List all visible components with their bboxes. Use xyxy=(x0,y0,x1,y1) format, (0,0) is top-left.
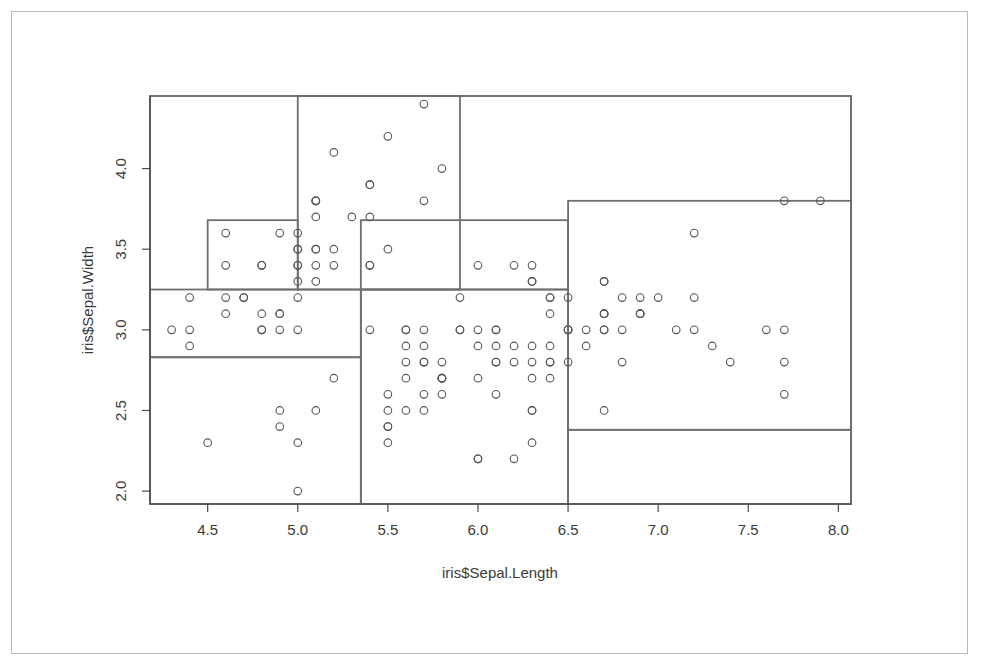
region-mid-length-upper-band xyxy=(361,220,568,289)
x-tick-label: 5.0 xyxy=(287,521,308,538)
partition-rectangles-layer xyxy=(150,96,851,504)
data-point xyxy=(222,294,230,302)
data-point xyxy=(384,133,392,141)
region-low-length-low-width xyxy=(150,357,361,504)
data-point xyxy=(528,439,536,447)
data-point xyxy=(186,342,194,350)
data-point xyxy=(222,262,230,270)
data-point xyxy=(546,294,554,302)
data-point xyxy=(600,278,608,286)
plot-frame xyxy=(150,96,851,504)
data-point xyxy=(402,407,410,415)
data-point xyxy=(420,407,428,415)
data-point xyxy=(222,229,230,237)
data-point xyxy=(492,326,500,334)
data-point xyxy=(690,229,698,237)
data-point xyxy=(402,326,410,334)
x-tick-label: 5.5 xyxy=(377,521,398,538)
region-low-length-mid-width xyxy=(150,290,361,358)
y-axis-ticks: 2.02.53.03.54.0 xyxy=(112,158,150,501)
data-point xyxy=(763,326,771,334)
data-point xyxy=(546,374,554,382)
data-point xyxy=(330,374,338,382)
data-point xyxy=(330,149,338,157)
data-point xyxy=(528,358,536,366)
data-point xyxy=(312,262,320,270)
data-point xyxy=(330,245,338,253)
region-high-length-mid-width xyxy=(568,201,851,430)
data-point xyxy=(312,278,320,286)
data-point xyxy=(781,358,789,366)
data-point xyxy=(528,278,536,286)
data-point xyxy=(438,165,446,173)
data-point xyxy=(582,326,590,334)
data-point xyxy=(258,262,266,270)
data-point xyxy=(438,374,446,382)
data-point xyxy=(276,326,284,334)
data-point xyxy=(366,181,374,189)
data-point xyxy=(420,342,428,350)
data-point xyxy=(222,310,230,318)
data-point xyxy=(276,310,284,318)
data-point xyxy=(600,326,608,334)
data-point xyxy=(420,100,428,108)
data-point xyxy=(708,342,716,350)
data-point xyxy=(492,342,500,350)
data-point xyxy=(600,310,608,318)
data-point xyxy=(726,358,734,366)
y-tick-label: 2.0 xyxy=(112,481,129,502)
data-point xyxy=(294,326,302,334)
data-point xyxy=(510,262,518,270)
data-point xyxy=(420,326,428,334)
data-point xyxy=(492,391,500,399)
data-point xyxy=(402,358,410,366)
data-point xyxy=(366,262,374,270)
scatterplot-svg: 4.55.05.56.06.57.07.58.0 iris$Sepal.Leng… xyxy=(0,0,982,669)
data-point xyxy=(474,342,482,350)
data-point xyxy=(384,407,392,415)
data-point xyxy=(384,423,392,431)
data-point xyxy=(492,358,500,366)
y-tick-label: 2.5 xyxy=(112,400,129,421)
y-tick-label: 3.5 xyxy=(112,239,129,260)
data-point xyxy=(654,294,662,302)
x-tick-label: 4.5 xyxy=(197,521,218,538)
y-tick-label: 4.0 xyxy=(112,158,129,179)
data-points-layer xyxy=(168,100,824,495)
figure-container: 4.55.05.56.06.57.07.58.0 iris$Sepal.Leng… xyxy=(0,0,982,669)
data-point xyxy=(384,245,392,253)
region-mid-length-high-width xyxy=(298,96,460,290)
x-axis-title: iris$Sepal.Length xyxy=(442,564,558,581)
data-point xyxy=(186,294,194,302)
region-low-length-high-width xyxy=(208,220,298,289)
page-canvas: 4.55.05.56.06.57.07.58.0 iris$Sepal.Leng… xyxy=(0,0,982,669)
data-point xyxy=(420,197,428,205)
data-point xyxy=(384,439,392,447)
data-point xyxy=(510,342,518,350)
data-point xyxy=(348,213,356,221)
y-axis-title: iris$Sepal.Width xyxy=(79,246,96,354)
data-point xyxy=(294,294,302,302)
data-point xyxy=(402,342,410,350)
data-point xyxy=(546,342,554,350)
x-tick-label: 6.0 xyxy=(468,521,489,538)
data-point xyxy=(294,439,302,447)
x-tick-label: 8.0 xyxy=(828,521,849,538)
data-point xyxy=(618,294,626,302)
data-point xyxy=(312,213,320,221)
data-point xyxy=(240,294,248,302)
y-axis: 2.02.53.03.54.0 iris$Sepal.Width xyxy=(79,96,150,504)
data-point xyxy=(672,326,680,334)
data-point xyxy=(636,294,644,302)
data-point xyxy=(474,374,482,382)
data-point xyxy=(420,358,428,366)
data-point xyxy=(276,423,284,431)
data-point xyxy=(258,310,266,318)
data-point xyxy=(402,374,410,382)
x-tick-label: 7.5 xyxy=(738,521,759,538)
data-point xyxy=(312,197,320,205)
data-point xyxy=(168,326,176,334)
data-point xyxy=(510,358,518,366)
data-point xyxy=(204,439,212,447)
data-point xyxy=(781,326,789,334)
